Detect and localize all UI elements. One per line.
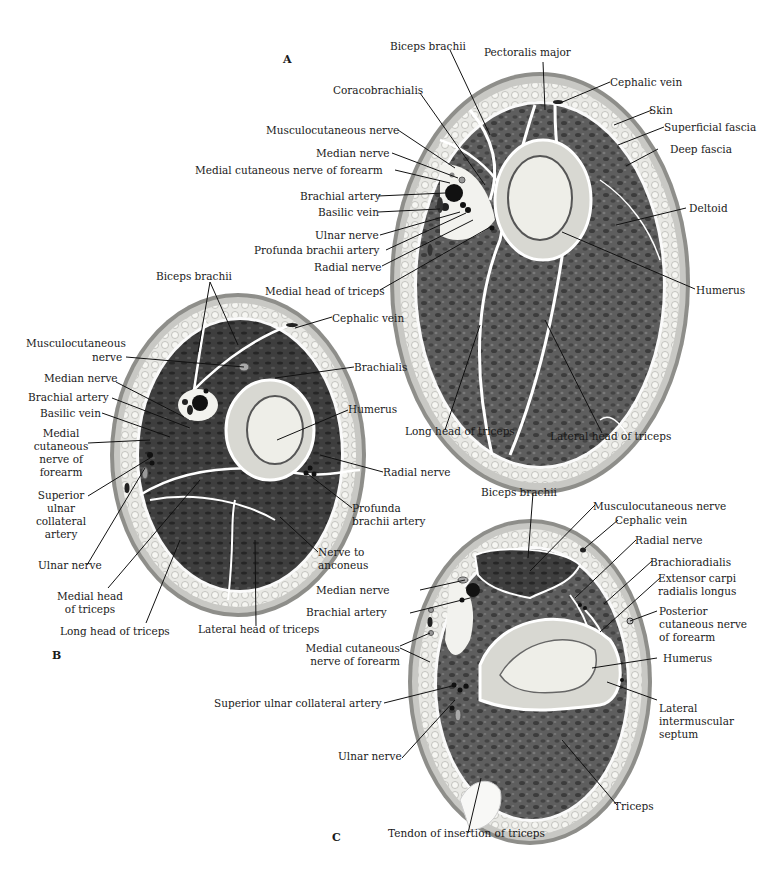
- label-a-cephalic-vein: Cephalic vein: [610, 76, 682, 88]
- label-b-profunda-line2: brachii artery: [352, 515, 425, 527]
- label-c-ecrl-line2: radialis longus: [658, 585, 736, 597]
- label-b-nerve-anconeus-line2: anconeus: [318, 559, 368, 571]
- label-b-humerus: Humerus: [348, 403, 397, 415]
- label-a-radial-nerve: Radial nerve: [314, 261, 382, 273]
- label-c-cephalic-vein: Cephalic vein: [615, 514, 687, 526]
- label-a-deep-fascia: Deep fascia: [670, 143, 732, 155]
- label-a-lateral-head-triceps: Lateral head of triceps: [550, 430, 671, 442]
- panel-label-c: C: [332, 831, 341, 844]
- label-c-median-nerve: Median nerve: [316, 584, 390, 596]
- label-b-superior-ulnar-line3: collateral: [30, 515, 92, 527]
- label-a-biceps-brachii: Biceps brachii: [390, 40, 466, 52]
- label-a-coracobrachialis: Coracobrachialis: [333, 84, 423, 96]
- label-b-ulnar-nerve: Ulnar nerve: [38, 559, 102, 571]
- label-b-medial-cutaneous-line2: cutaneous: [30, 440, 92, 452]
- label-b-medial-cutaneous-line3: nerve of: [30, 453, 92, 465]
- label-c-ecrl-line1: Extensor carpi: [658, 572, 736, 584]
- label-b-lateral-head-triceps: Lateral head of triceps: [198, 623, 319, 635]
- label-a-medial-head-triceps: Medial head of triceps: [265, 285, 385, 297]
- label-c-brachioradialis: Brachioradialis: [650, 556, 731, 568]
- label-c-posterior-cutaneous-line1: Posterior: [659, 605, 708, 617]
- label-b-radial-nerve: Radial nerve: [383, 466, 451, 478]
- label-b-medial-head-line1: Medial head: [50, 590, 130, 602]
- label-a-superficial-fascia: Superficial fascia: [664, 121, 756, 133]
- label-b-long-head-triceps: Long head of triceps: [60, 625, 170, 637]
- label-c-tendon-insertion-triceps: Tendon of insertion of triceps: [388, 827, 545, 839]
- label-b-musculocutaneous-nerve-line1: Musculocutaneous: [26, 337, 126, 349]
- label-b-brachial-artery: Brachial artery: [28, 391, 109, 403]
- label-a-brachial-artery: Brachial artery: [300, 190, 381, 202]
- label-c-superior-ulnar-collateral-artery: Superior ulnar collateral artery: [214, 697, 382, 709]
- label-c-lateral-septum-line2: intermuscular: [659, 715, 734, 727]
- label-c-radial-nerve: Radial nerve: [635, 534, 703, 546]
- panel-label-b: B: [52, 649, 61, 662]
- label-c-medial-cutaneous-line2: nerve of forearm: [280, 655, 400, 667]
- label-b-median-nerve: Median nerve: [44, 372, 118, 384]
- label-a-median-nerve: Median nerve: [316, 147, 390, 159]
- panel-label-a: A: [283, 53, 292, 66]
- label-c-musculocutaneous-nerve: Musculocutaneous nerve: [593, 500, 726, 512]
- label-b-biceps-brachii: Biceps brachii: [156, 270, 232, 282]
- label-b-medial-cutaneous-line4: forearm: [30, 466, 92, 478]
- label-b-superior-ulnar-line2: ulnar: [30, 502, 92, 514]
- label-a-deltoid: Deltoid: [689, 202, 728, 214]
- label-b-brachialis: Brachialis: [354, 361, 407, 373]
- label-b-basilic-vein: Basilic vein: [40, 407, 101, 419]
- label-c-posterior-cutaneous-line3: of forearm: [659, 631, 715, 643]
- label-a-long-head-triceps: Long head of triceps: [405, 425, 515, 437]
- section-c: [408, 519, 652, 845]
- label-a-profunda-brachii-artery: Profunda brachii artery: [254, 244, 380, 256]
- label-c-brachial-artery: Brachial artery: [306, 606, 387, 618]
- label-c-lateral-septum-line3: septum: [659, 728, 698, 740]
- label-c-medial-cutaneous-line1: Medial cutaneous: [280, 642, 400, 654]
- label-b-medial-cutaneous-line1: Medial: [30, 427, 92, 439]
- label-c-triceps: Triceps: [614, 800, 654, 812]
- label-a-ulnar-nerve: Ulnar nerve: [315, 229, 379, 241]
- label-c-ulnar-nerve: Ulnar nerve: [338, 750, 402, 762]
- label-c-biceps-brachii: Biceps brachii: [481, 486, 557, 498]
- label-b-medial-head-line2: of triceps: [50, 603, 130, 615]
- label-a-medial-cutaneous-nerve-forearm: Medial cutaneous nerve of forearm: [195, 164, 383, 176]
- label-b-superior-ulnar-line1: Superior: [30, 489, 92, 501]
- label-c-lateral-septum-line1: Lateral: [659, 702, 697, 714]
- label-b-profunda-line1: Profunda: [352, 502, 401, 514]
- label-a-basilic-vein: Basilic vein: [318, 206, 379, 218]
- label-b-nerve-anconeus-line1: Nerve to: [318, 546, 364, 558]
- label-b-cephalic-vein: Cephalic vein: [332, 312, 404, 324]
- label-c-posterior-cutaneous-line2: cutaneous nerve: [659, 618, 747, 630]
- label-a-pectoralis-major: Pectoralis major: [484, 46, 571, 58]
- label-b-superior-ulnar-line4: artery: [30, 528, 92, 540]
- label-a-humerus: Humerus: [696, 284, 745, 296]
- label-a-musculocutaneous-nerve: Musculocutaneous nerve: [266, 124, 399, 136]
- label-a-skin: Skin: [649, 104, 673, 116]
- label-c-humerus: Humerus: [663, 652, 712, 664]
- label-b-musculocutaneous-nerve-line2: nerve: [92, 351, 122, 363]
